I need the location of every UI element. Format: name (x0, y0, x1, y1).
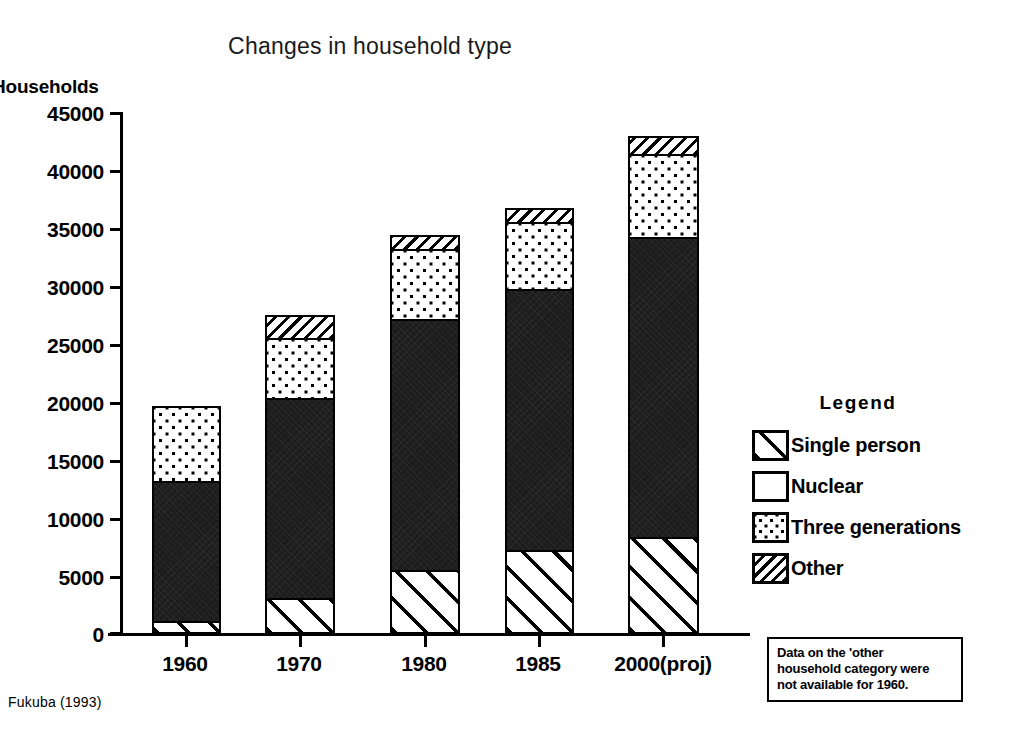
bar-segment-nuclear[interactable] (505, 289, 574, 552)
legend-swatch-nuclear-icon (752, 471, 789, 502)
y-tick-5000 (110, 576, 122, 579)
bar-segment-single-person[interactable] (152, 621, 221, 634)
x-axis-label-2000-proj: 2000(proj) (592, 652, 734, 676)
legend-label-nuclear: Nuclear (791, 475, 863, 498)
bar-1960[interactable] (152, 406, 221, 634)
bar-2000-proj[interactable] (628, 136, 699, 634)
y-tick-25000 (110, 344, 122, 347)
x-tick-1960 (185, 636, 188, 647)
x-axis-label-1970: 1970 (239, 652, 359, 676)
y-tick-45000 (110, 112, 122, 115)
y-tick-label-45000: 45000 (8, 102, 104, 126)
annotation-note-box: Data on the 'other household category we… (767, 637, 963, 702)
bar-segment-single-person[interactable] (265, 598, 335, 634)
bar-segment-other[interactable] (265, 315, 335, 340)
y-tick-35000 (110, 228, 122, 231)
legend-swatch-three-generations-icon (752, 512, 789, 543)
y-tick-label-5000: 5000 (8, 566, 104, 590)
y-tick-label-15000: 15000 (8, 450, 104, 474)
bar-segment-nuclear[interactable] (390, 319, 460, 572)
y-tick-label-10000: 10000 (8, 508, 104, 532)
y-tick-label-0: 0 (8, 623, 104, 647)
bar-segment-nuclear[interactable] (628, 237, 699, 539)
legend-label-three-generations: Three generations (791, 516, 961, 539)
bar-segment-three-generations[interactable] (152, 406, 221, 483)
y-tick-40000 (110, 170, 122, 173)
y-tick-20000 (110, 402, 122, 405)
y-tick-label-40000: 40000 (8, 160, 104, 184)
y-tick-label-35000: 35000 (8, 218, 104, 242)
note-line-2: household category were (777, 661, 954, 677)
legend-label-single-person: Single person (791, 434, 921, 457)
y-tick-label-30000: 30000 (8, 276, 104, 300)
bar-segment-nuclear[interactable] (152, 481, 221, 623)
y-tick-label-25000: 25000 (8, 334, 104, 358)
y-axis-tick-labels: 45000 40000 35000 30000 25000 20000 1500… (0, 0, 104, 745)
page-title: Changes in household type (0, 33, 740, 60)
x-tick-2000-proj (662, 636, 665, 647)
legend-title: Legend (752, 392, 964, 414)
y-tick-30000 (110, 286, 122, 289)
y-tick-10000 (110, 518, 122, 521)
x-tick-1970 (299, 636, 302, 647)
x-axis-label-1980: 1980 (364, 652, 484, 676)
legend-item-other[interactable]: Other (752, 549, 1020, 587)
legend-swatch-other-icon (752, 553, 789, 584)
bar-segment-nuclear[interactable] (265, 398, 335, 600)
bar-segment-single-person[interactable] (505, 550, 574, 634)
bar-1980[interactable] (390, 235, 460, 634)
legend-item-nuclear[interactable]: Nuclear (752, 467, 1020, 505)
bar-segment-single-person[interactable] (628, 537, 699, 634)
x-tick-1980 (424, 636, 427, 647)
legend-item-three-generations[interactable]: Three generations (752, 508, 1020, 546)
note-line-3: not available for 1960. (777, 677, 954, 693)
bar-1970[interactable] (265, 315, 335, 634)
bar-segment-three-generations[interactable] (390, 249, 460, 321)
bar-segment-three-generations[interactable] (505, 222, 574, 291)
y-tick-0 (110, 632, 122, 635)
bar-segment-three-generations[interactable] (265, 338, 335, 400)
x-axis-label-1960: 1960 (125, 652, 245, 676)
bar-segment-other[interactable] (628, 136, 699, 156)
legend-item-single-person[interactable]: Single person (752, 426, 1020, 464)
bar-segment-three-generations[interactable] (628, 154, 699, 239)
legend-label-other: Other (791, 557, 843, 580)
x-tick-1985 (538, 636, 541, 647)
legend-swatch-single-person-icon (752, 430, 789, 461)
y-tick-15000 (110, 460, 122, 463)
legend: Legend Single person Nuclear Three gener… (752, 392, 1020, 590)
note-line-1: Data on the 'other (777, 645, 954, 661)
source-citation: Fukuba (1993) (8, 694, 102, 710)
y-axis-line (120, 112, 123, 636)
y-tick-label-20000: 20000 (8, 392, 104, 416)
x-axis-label-1985: 1985 (478, 652, 598, 676)
bar-1985[interactable] (505, 208, 574, 634)
bar-segment-single-person[interactable] (390, 570, 460, 634)
